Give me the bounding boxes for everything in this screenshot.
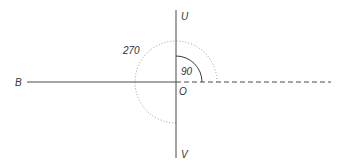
angle-diagram: U V B O 90 270 bbox=[0, 0, 342, 167]
point-label-u: U bbox=[181, 11, 189, 22]
angle-label-270: 270 bbox=[122, 45, 140, 56]
point-label-v: V bbox=[181, 149, 189, 160]
point-label-o: O bbox=[179, 86, 187, 97]
point-label-b: B bbox=[15, 77, 22, 88]
angle-label-90: 90 bbox=[181, 66, 193, 77]
